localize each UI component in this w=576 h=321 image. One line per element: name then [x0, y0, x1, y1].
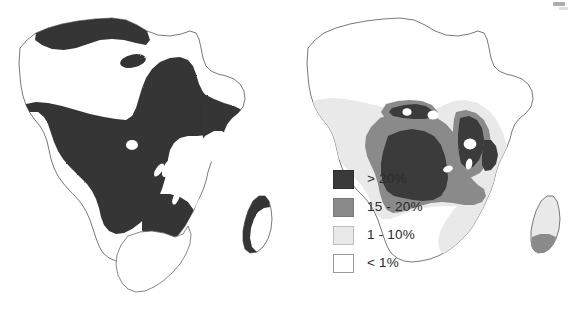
- lake-victoria-unshaded: [126, 140, 138, 150]
- legend-item-over-20[interactable]: > 20%: [333, 165, 465, 193]
- distribution-map-svg: [0, 0, 288, 321]
- legend-label-1-10: 1 - 10%: [367, 228, 415, 242]
- legend-label-under-1: < 1%: [367, 256, 399, 270]
- scan-artifact-smudge: [553, 2, 565, 6]
- legend-item-1-10[interactable]: 1 - 10%: [333, 221, 465, 249]
- hole-lake-chad-right: [428, 110, 439, 119]
- legend-swatch-over-20: [333, 170, 354, 189]
- legend-swatch-under-1: [333, 254, 354, 273]
- legend-item-15-20[interactable]: 15 - 20%: [333, 193, 465, 221]
- legend-label-over-20: > 20%: [367, 172, 407, 186]
- figure-container: > 20% 15 - 20% 1 - 10% < 1%: [0, 0, 576, 321]
- hole-lake-victoria-right: [464, 139, 477, 150]
- distribution-map-panel: [0, 0, 288, 321]
- madagascar-right: [531, 196, 560, 253]
- prevalence-legend: > 20% 15 - 20% 1 - 10% < 1%: [333, 165, 465, 277]
- madagascar-left: [243, 196, 272, 253]
- scan-artifact-smudge-secondary: [559, 7, 568, 10]
- madagascar-south-band-right: [531, 234, 556, 253]
- legend-item-under-1[interactable]: < 1%: [333, 249, 465, 277]
- prevalence-map-panel: > 20% 15 - 20% 1 - 10% < 1%: [288, 0, 576, 321]
- hole-jos-plateau-right: [402, 108, 411, 116]
- legend-label-15-20: 15 - 20%: [367, 200, 423, 214]
- legend-swatch-15-20: [333, 198, 354, 217]
- legend-swatch-1-10: [333, 226, 354, 245]
